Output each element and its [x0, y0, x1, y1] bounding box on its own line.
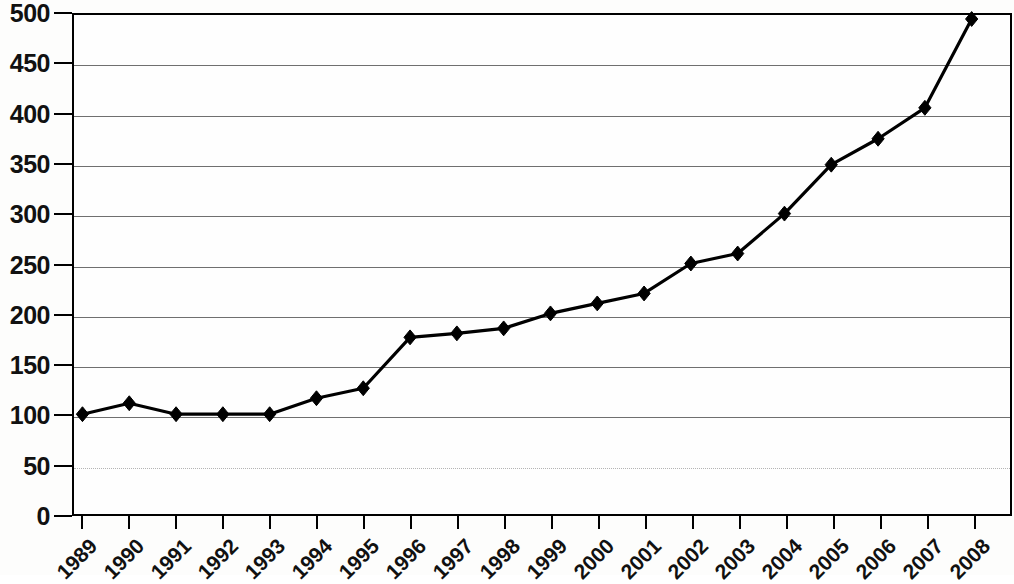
y-tick-label-50: 50 — [23, 451, 50, 480]
x-tick-mark-1998 — [504, 516, 506, 529]
x-tick-label-1995: 1995 — [327, 534, 384, 584]
x-tick-mark-1992 — [222, 516, 224, 529]
data-point-2006 — [872, 131, 884, 146]
x-tick-label-2001: 2001 — [609, 534, 666, 584]
x-tick-mark-2002 — [692, 516, 694, 529]
x-tick-label-1993: 1993 — [233, 534, 290, 584]
x-tick-mark-2001 — [645, 516, 647, 529]
y-tick-mark-100 — [54, 414, 72, 416]
x-tick-mark-1996 — [410, 516, 412, 529]
data-point-1993 — [264, 407, 276, 422]
y-tick-label-400: 400 — [10, 99, 50, 128]
y-tick-mark-0 — [54, 515, 72, 517]
x-tick-label-1999: 1999 — [515, 534, 572, 584]
x-tick-mark-2008 — [974, 516, 976, 529]
y-tick-label-200: 200 — [10, 300, 50, 329]
series-svg — [74, 15, 1010, 514]
x-tick-mark-2007 — [927, 516, 929, 529]
x-tick-mark-1997 — [457, 516, 459, 529]
x-tick-label-1991: 1991 — [139, 534, 196, 584]
x-tick-mark-2003 — [739, 516, 741, 529]
y-tick-label-100: 100 — [10, 401, 50, 430]
y-tick-label-300: 300 — [10, 200, 50, 229]
x-tick-mark-2006 — [880, 516, 882, 529]
y-tick-label-250: 250 — [10, 250, 50, 279]
x-tick-mark-2004 — [786, 516, 788, 529]
y-tick-mark-350 — [54, 163, 72, 165]
y-tick-mark-300 — [54, 213, 72, 215]
x-tick-mark-1994 — [316, 516, 318, 529]
plot-area — [72, 13, 1012, 516]
x-tick-label-1996: 1996 — [374, 534, 431, 584]
data-point-1991 — [170, 407, 182, 422]
y-tick-mark-500 — [54, 12, 72, 14]
x-tick-label-1990: 1990 — [92, 534, 149, 584]
y-tick-mark-50 — [54, 465, 72, 467]
data-point-2000 — [591, 296, 603, 311]
x-tick-label-2004: 2004 — [750, 534, 807, 584]
x-tick-mark-1990 — [128, 516, 130, 529]
data-point-1989 — [76, 407, 88, 422]
x-axis: 1989199019911992199319941995199619971998… — [72, 516, 1012, 575]
x-tick-label-1992: 1992 — [186, 534, 243, 584]
x-tick-mark-1989 — [81, 516, 83, 529]
x-tick-label-1997: 1997 — [421, 534, 478, 584]
data-point-1998 — [498, 321, 510, 336]
y-tick-mark-450 — [54, 62, 72, 64]
x-tick-mark-1999 — [551, 516, 553, 529]
data-point-1992 — [217, 407, 229, 422]
y-tick-mark-400 — [54, 113, 72, 115]
data-point-1999 — [544, 306, 556, 321]
data-point-1990 — [123, 396, 135, 411]
x-tick-label-2003: 2003 — [703, 534, 760, 584]
y-tick-label-0: 0 — [37, 502, 50, 531]
x-tick-label-2000: 2000 — [562, 534, 619, 584]
x-tick-label-2006: 2006 — [844, 534, 901, 584]
x-tick-label-1994: 1994 — [280, 534, 337, 584]
x-tick-mark-2005 — [833, 516, 835, 529]
y-tick-label-500: 500 — [10, 0, 50, 28]
x-tick-mark-2000 — [598, 516, 600, 529]
y-tick-mark-150 — [54, 364, 72, 366]
y-tick-mark-200 — [54, 314, 72, 316]
series-line — [82, 19, 971, 414]
x-tick-label-2002: 2002 — [656, 534, 713, 584]
data-point-2001 — [638, 286, 650, 301]
x-tick-mark-1995 — [363, 516, 365, 529]
x-tick-label-2008: 2008 — [938, 534, 995, 584]
y-tick-label-350: 350 — [10, 149, 50, 178]
y-tick-mark-250 — [54, 264, 72, 266]
y-axis: 500450400350300250200150100500 — [0, 0, 72, 575]
y-tick-label-150: 150 — [10, 351, 50, 380]
x-tick-mark-1991 — [175, 516, 177, 529]
data-point-2002 — [685, 256, 697, 271]
data-point-1994 — [310, 391, 322, 406]
x-tick-label-2005: 2005 — [797, 534, 854, 584]
x-tick-label-2007: 2007 — [891, 534, 948, 584]
x-tick-label-1998: 1998 — [468, 534, 525, 584]
x-tick-mark-1993 — [269, 516, 271, 529]
data-point-1997 — [451, 326, 463, 341]
y-tick-label-450: 450 — [10, 49, 50, 78]
